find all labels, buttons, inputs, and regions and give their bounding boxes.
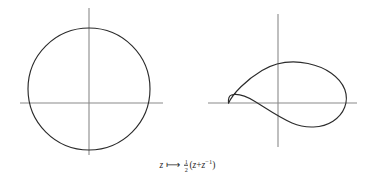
caption-close-paren: )	[212, 160, 215, 170]
fraction-denominator: 2	[184, 165, 188, 173]
right-panel-image-curve	[208, 14, 357, 147]
fraction-numerator: 1	[184, 159, 188, 166]
one-half-fraction: 12	[184, 159, 188, 173]
joukowski-airfoil-curve	[228, 62, 346, 127]
left-panel-domain-circle	[20, 8, 163, 155]
figure-caption: z⟼12(z+z−1)	[0, 158, 375, 173]
maps-to-arrow-icon: ⟼	[163, 158, 183, 172]
